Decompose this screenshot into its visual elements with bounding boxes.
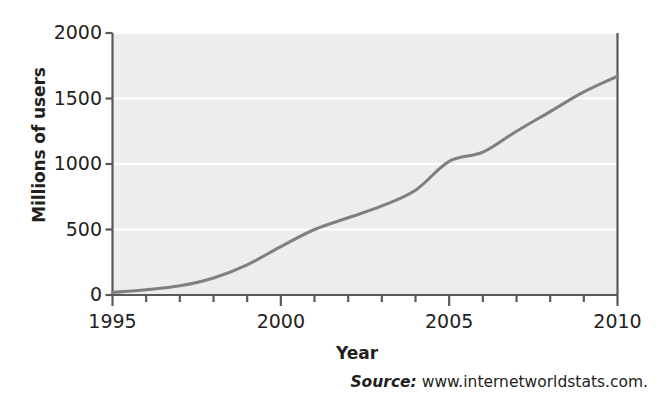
x-axis-tick-labels: 1995200020052010 — [0, 303, 662, 333]
source-label: Source: — [350, 373, 416, 391]
source-note: Source: www.internetworldstats.com. — [0, 373, 662, 391]
x-axis-title-text: Year — [284, 343, 378, 363]
y-tick-label-1500: 1500 — [40, 89, 102, 108]
x-tick-label-1995: 1995 — [88, 312, 136, 331]
x-tick-label-2005: 2005 — [425, 312, 473, 331]
y-tick-label-0: 0 — [40, 285, 102, 304]
y-tick-label-1000: 1000 — [40, 154, 102, 173]
y-tick-label-500: 500 — [40, 220, 102, 239]
y-tick-label-2000: 2000 — [40, 23, 102, 42]
x-tick-label-2000: 2000 — [257, 312, 305, 331]
x-tick-label-2010: 2010 — [593, 312, 641, 331]
source-url: www.internetworldstats.com. — [422, 373, 648, 391]
x-axis-title: Year — [0, 343, 662, 363]
internet-users-line-chart: Millions of users 0500100015002000 19952… — [0, 0, 662, 413]
